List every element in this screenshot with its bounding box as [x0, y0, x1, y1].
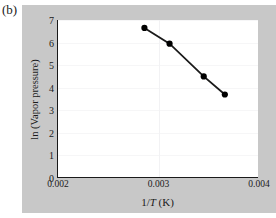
plot-area: 012345670.0020.0030.004: [57, 20, 258, 178]
y-axis-tick-label: 5: [49, 60, 54, 71]
y-axis-label: ln (Vapor pressure): [26, 20, 42, 178]
subfigure-label: (b): [2, 2, 17, 18]
y-axis-tick-label: 3: [49, 105, 54, 116]
x-axis-tick-label: 0.003: [148, 179, 169, 189]
x-axis-label: 1/T (K): [57, 196, 258, 208]
data-point-marker: [141, 25, 147, 31]
data-series-line: [58, 20, 259, 178]
data-point-marker: [166, 41, 172, 47]
y-axis-tick-label: 4: [49, 82, 54, 93]
x-axis-tick-label: 0.004: [248, 179, 269, 189]
figure-panel-b: (b) ln (Vapor pressure) 012345670.0020.0…: [0, 0, 276, 218]
y-axis-tick-label: 2: [49, 127, 54, 138]
data-point-marker: [201, 73, 207, 79]
x-axis-label-text: 1/T (K): [141, 196, 174, 208]
series-line: [144, 28, 224, 95]
x-axis-tick-label: 0.002: [47, 179, 68, 189]
y-axis-tick-label: 6: [49, 37, 54, 48]
y-axis-tick-label: 7: [49, 15, 54, 26]
data-point-marker: [222, 91, 228, 97]
y-axis-tick-label: 1: [49, 150, 54, 161]
y-axis-label-text: ln (Vapor pressure): [29, 59, 40, 139]
